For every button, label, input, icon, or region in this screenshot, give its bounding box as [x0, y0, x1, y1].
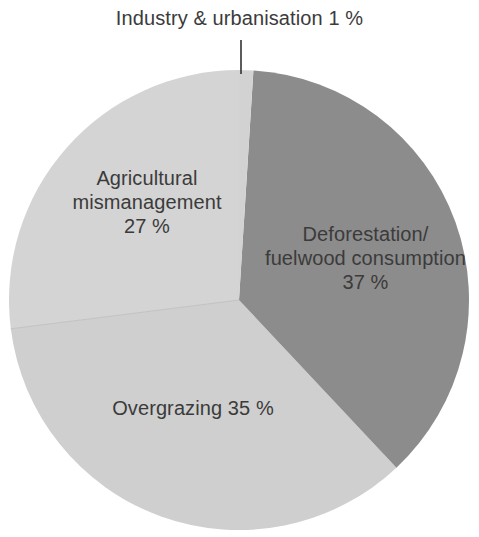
slice-label-agricultural-mismanagement: Agricultural mismanagement 27 %	[52, 166, 242, 238]
slice-label-overgrazing: Overgrazing 35 %	[78, 396, 308, 420]
pie-chart-figure: Industry & urbanisation 1 % Agricultural…	[0, 0, 479, 537]
slice-label-industry-urbanisation: Industry & urbanisation 1 %	[0, 6, 479, 30]
slice-label-deforestation-fuelwood: Deforestation/ fuelwood consumption 37 %	[258, 222, 473, 294]
